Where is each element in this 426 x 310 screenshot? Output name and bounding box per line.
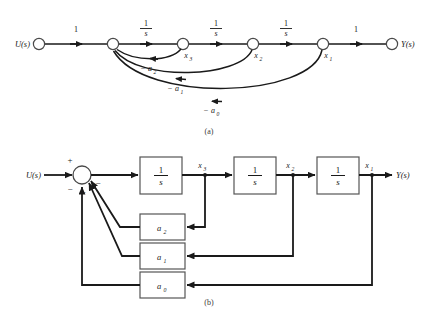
bd-int2-denominator: s — [253, 177, 257, 187]
bd-a1-symbol: a — [157, 252, 161, 262]
bd-x2-symbol: x — [285, 161, 290, 170]
signal-flow-graph-group: U(s) Y(s) 1 1 s 1 s 1 s 1 — [15, 19, 415, 136]
sfg-output-label: Y(s) — [401, 39, 415, 49]
sfg-gain-4-fraction: 1 s — [280, 19, 292, 38]
bd-feedback-block-a1 — [140, 243, 185, 269]
bd-feedback-block-a2 — [140, 214, 185, 240]
sfg-node-sum — [107, 38, 118, 49]
sfg-feedback-arrow-a2 — [150, 58, 158, 59]
bd-x3-subscript: 3 — [203, 166, 207, 172]
sfg-gain-3-denominator: s — [214, 29, 217, 38]
bd-summer-minus-sign-3: − — [95, 178, 100, 188]
sfg-node-input — [33, 38, 44, 49]
bd-wire-a0-to-summer — [82, 187, 140, 285]
sfg-node-x3 — [177, 38, 188, 49]
bd-wire-x3-to-a2 — [187, 175, 205, 227]
figure-svg: U(s) Y(s) 1 1 s 1 s 1 s 1 — [0, 0, 426, 310]
sfg-a0-symbol: a — [211, 106, 215, 115]
bd-summer-plus-sign: + — [67, 155, 72, 165]
sfg-gain-4-numerator: 1 — [284, 19, 288, 28]
bd-state-label-x2: x 2 — [285, 161, 294, 172]
sfg-feedback-label-a0: − a 0 — [204, 106, 220, 117]
bd-a0-subscript: 0 — [164, 287, 167, 293]
caption-a: (a) — [205, 127, 214, 136]
sfg-node-x2 — [247, 38, 258, 49]
sfg-gain-3-fraction: 1 s — [210, 19, 222, 38]
sfg-feedback-arc-a2 — [117, 49, 181, 59]
bd-summing-junction — [73, 166, 91, 184]
bd-x3-symbol: x — [197, 161, 202, 170]
sfg-gain-2-numerator: 1 — [144, 19, 148, 28]
bd-input-label: U(s) — [26, 170, 41, 180]
bd-feedback-block-a0 — [140, 272, 185, 298]
sfg-x1-symbol: x — [323, 51, 328, 60]
bd-int3-denominator: s — [336, 177, 340, 187]
sfg-a0-sign: − — [204, 106, 209, 115]
sfg-x3-symbol: x — [183, 51, 188, 60]
sfg-a2-sign: − — [141, 64, 146, 73]
sfg-feedback-arrow-a1 — [176, 79, 186, 80]
bd-a2-symbol: a — [157, 223, 161, 233]
sfg-x1-subscript: 1 — [330, 56, 333, 62]
sfg-state-label-x3: x 3 — [183, 51, 192, 62]
bd-int1-numerator: 1 — [159, 165, 164, 175]
sfg-gain-2-denominator: s — [144, 29, 147, 38]
bd-x1-subscript: 1 — [371, 166, 374, 172]
bd-int3-numerator: 1 — [336, 165, 341, 175]
block-diagram-group: U(s) + − − − 1 s x 3 — [26, 155, 410, 307]
sfg-node-x1 — [317, 38, 328, 49]
bd-output-label: Y(s) — [396, 170, 410, 180]
sfg-x3-subscript: 3 — [189, 56, 193, 62]
sfg-a0-subscript: 0 — [217, 111, 220, 117]
sfg-gain-4-denominator: s — [284, 29, 287, 38]
bd-state-label-x1: x 1 — [364, 161, 373, 172]
sfg-input-label: U(s) — [15, 39, 30, 49]
sfg-state-label-x1: x 1 — [323, 51, 332, 62]
bd-a2-subscript: 2 — [164, 229, 167, 235]
bd-x2-subscript: 2 — [292, 166, 295, 172]
sfg-gain-1-label: 1 — [74, 25, 78, 34]
bd-int2-numerator: 1 — [253, 165, 258, 175]
bd-a0-symbol: a — [157, 281, 161, 291]
bd-state-label-x3: x 3 — [197, 161, 206, 172]
figure-container: U(s) Y(s) 1 1 s 1 s 1 s 1 — [0, 0, 426, 310]
sfg-gain-5-label: 1 — [354, 25, 358, 34]
caption-b: (b) — [204, 298, 214, 307]
sfg-gain-3-numerator: 1 — [214, 19, 218, 28]
bd-int1-denominator: s — [159, 177, 163, 187]
sfg-x2-subscript: 2 — [260, 56, 263, 62]
sfg-a1-subscript: 1 — [181, 89, 184, 95]
sfg-state-label-x2: x 2 — [253, 51, 262, 62]
sfg-a1-sign: − — [168, 84, 173, 93]
sfg-gain-2-fraction: 1 s — [140, 19, 152, 38]
bd-x1-symbol: x — [364, 161, 369, 170]
bd-summer-minus-sign-1: − — [67, 184, 72, 194]
sfg-x2-symbol: x — [253, 51, 258, 60]
sfg-node-output — [386, 38, 397, 49]
bd-a1-subscript: 1 — [164, 258, 167, 264]
